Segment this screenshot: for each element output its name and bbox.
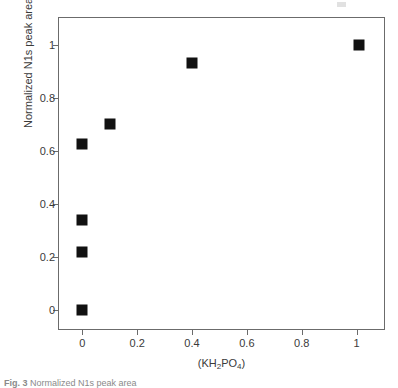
x-axis-title-post: ) <box>242 357 246 369</box>
x-tick-mark <box>82 329 83 335</box>
x-tick-label: 0.8 <box>294 337 309 349</box>
data-point <box>77 305 88 316</box>
x-axis-title-mid: PO <box>221 357 237 369</box>
plot-area <box>59 18 384 329</box>
figure-caption: Fig. 3 Normalized N1s peak area <box>4 378 396 388</box>
plot-frame: 00.20.40.60.8100.20.40.60.81 <box>58 17 385 330</box>
data-point <box>77 139 88 150</box>
data-point <box>104 119 115 130</box>
y-axis-title-text: Normalized N1s peak area <box>22 112 34 128</box>
y-tick-label: 0.8 <box>40 92 55 104</box>
x-axis-title: (KH2PO4) <box>58 357 385 371</box>
figure: 00.20.40.60.8100.20.40.60.81 Normalized … <box>0 0 398 388</box>
y-tick-label: 0.6 <box>40 145 55 157</box>
x-tick-label: 0.6 <box>239 337 254 349</box>
x-tick-label: 1 <box>354 337 360 349</box>
x-tick-mark <box>192 329 193 335</box>
x-tick-label: 0 <box>79 337 85 349</box>
figure-caption-label: Fig. 3 <box>4 378 28 388</box>
y-tick-label: 0.2 <box>40 251 55 263</box>
x-tick-mark <box>137 329 138 335</box>
x-tick-label: 0.4 <box>184 337 199 349</box>
x-axis-title-pre: (KH <box>198 357 217 369</box>
y-tick-label: 1 <box>49 39 55 51</box>
x-tick-mark <box>357 329 358 335</box>
y-axis-title: Normalized N1s peak area <box>22 112 34 128</box>
y-tick-label: 0.4 <box>40 198 55 210</box>
data-point <box>187 58 198 69</box>
y-tick-label: 0 <box>49 304 55 316</box>
x-tick-label: 0.2 <box>130 337 145 349</box>
x-tick-mark <box>302 329 303 335</box>
x-tick-mark <box>247 329 248 335</box>
data-point <box>354 39 365 50</box>
figure-caption-text: Normalized N1s peak area <box>30 378 137 388</box>
data-point <box>77 215 88 226</box>
data-point <box>77 246 88 257</box>
artifact-speck <box>337 2 346 7</box>
